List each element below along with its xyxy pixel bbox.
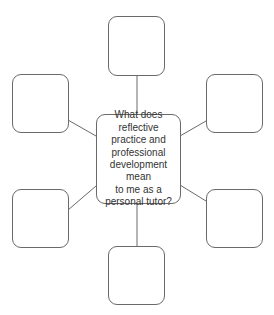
connector-top-right <box>180 121 206 136</box>
connector-top-left <box>68 120 96 136</box>
connector-bottom-left <box>68 186 96 210</box>
connector-bottom-right <box>180 185 206 201</box>
central-question-box: What does reflective practice and profes… <box>96 114 181 204</box>
outer-box-top <box>108 16 165 76</box>
outer-box-bottom <box>108 246 165 305</box>
outer-box-bottom-left <box>12 189 69 248</box>
outer-box-top-right <box>206 74 263 133</box>
outer-box-bottom-right <box>206 189 263 248</box>
outer-box-top-left <box>12 74 69 133</box>
central-question-text: What does reflective practice and profes… <box>97 109 180 208</box>
